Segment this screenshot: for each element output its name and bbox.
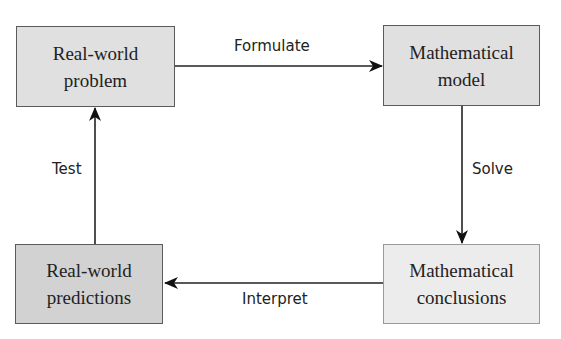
modeling-cycle-diagram: Real-world problem Mathematical model Ma… [0,0,561,339]
node-real-world-problem: Real-world problem [16,26,175,107]
edge-label-test: Test [52,160,82,178]
node-mathematical-conclusions: Mathematical conclusions [383,244,540,324]
node-label-line2: predictions [47,284,131,311]
node-label-line2: problem [64,67,127,94]
edge-label-formulate: Formulate [234,37,310,55]
node-label-line1: Mathematical [409,39,513,66]
node-real-world-predictions: Real-world predictions [15,244,163,324]
edge-label-solve: Solve [472,160,513,178]
node-label-line2: model [438,66,486,93]
node-mathematical-model: Mathematical model [383,25,540,106]
node-label-line2: conclusions [417,284,507,311]
node-label-line1: Mathematical [409,257,513,284]
node-label-line1: Real-world [46,257,131,284]
node-label-line1: Real-world [53,40,138,67]
edge-label-interpret: Interpret [242,290,308,308]
